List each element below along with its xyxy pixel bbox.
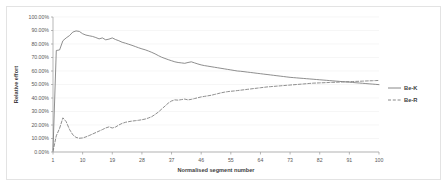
- x-tick-label: 28: [139, 157, 145, 163]
- y-tick-label: 90.00%: [31, 27, 49, 33]
- chart-figure: 0.00%10.00%20.00%30.00%40.00%50.00%60.00…: [0, 0, 447, 186]
- data-series-group: [53, 31, 379, 151]
- gridlines-group: [53, 17, 379, 152]
- x-tick-label: 46: [198, 157, 204, 163]
- x-tick-label: 73: [287, 157, 293, 163]
- y-tick-label: 0.00%: [34, 149, 49, 155]
- series-line-be-r: [53, 80, 379, 151]
- x-tick-label: 64: [258, 157, 264, 163]
- x-axis-tick-labels: 110192837465564738291100: [52, 152, 384, 163]
- y-tick-label: 20.00%: [31, 122, 49, 128]
- series-line-be-k: [53, 31, 379, 150]
- chart-legend: Be-KBe-R: [388, 85, 418, 103]
- y-axis-title: Relative effort: [13, 66, 19, 103]
- y-tick-label: 30.00%: [31, 108, 49, 114]
- x-tick-label: 10: [80, 157, 86, 163]
- y-tick-label: 10.00%: [31, 135, 49, 141]
- y-tick-label: 50.00%: [31, 81, 49, 87]
- y-tick-label: 80.00%: [31, 41, 49, 47]
- y-axis-tick-labels: 0.00%10.00%20.00%30.00%40.00%50.00%60.00…: [29, 14, 53, 155]
- x-tick-label: 91: [346, 157, 352, 163]
- x-tick-label: 55: [228, 157, 234, 163]
- chart-plot-wrapper: 0.00%10.00%20.00%30.00%40.00%50.00%60.00…: [0, 0, 447, 186]
- x-tick-label: 37: [169, 157, 175, 163]
- y-tick-label: 60.00%: [31, 68, 49, 74]
- legend-label-be-r: Be-R: [404, 97, 418, 103]
- x-tick-label: 1: [52, 157, 55, 163]
- x-axis-title: Normalised segment number: [177, 167, 255, 173]
- y-tick-label: 100.00%: [29, 14, 50, 20]
- legend-label-be-k: Be-K: [404, 85, 418, 91]
- line-chart: 0.00%10.00%20.00%30.00%40.00%50.00%60.00…: [0, 0, 447, 186]
- x-tick-label: 82: [317, 157, 323, 163]
- x-tick-label: 19: [109, 157, 115, 163]
- y-tick-label: 40.00%: [31, 95, 49, 101]
- x-tick-label: 100: [375, 157, 384, 163]
- y-tick-label: 70.00%: [31, 54, 49, 60]
